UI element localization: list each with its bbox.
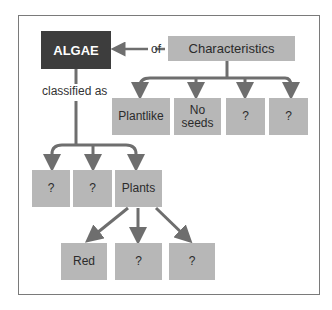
classification-unknown: ? [32,170,70,207]
characteristic-plantlike: Plantlike [112,98,170,135]
plant-type-unknown: ? [115,243,162,280]
classification-unknown: ? [73,170,112,207]
plant-type-red: Red [61,243,107,280]
plant-type-unknown: ? [169,243,215,280]
characteristics-box: Characteristics [168,36,295,61]
classified-as-label: classified as [42,84,107,98]
characteristic-unknown: ? [269,98,308,135]
of-label: of [149,42,163,56]
classification-plants: Plants [115,170,162,207]
characteristic-unknown: ? [226,98,265,135]
algae-box: ALGAE [41,31,111,69]
characteristic-no-seeds: No seeds [174,98,221,135]
